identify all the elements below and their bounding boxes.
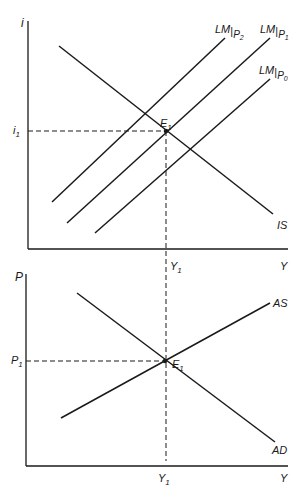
bottom-equilibrium-label: E1 (172, 358, 184, 373)
i1-label: i1 (13, 124, 20, 139)
bottom-x-axis-label: Y (280, 472, 288, 484)
lm-p2-curve (52, 38, 225, 202)
as-label: AS (272, 297, 288, 309)
top-y-axis-label: i (21, 16, 24, 30)
lm-p0-label: LM|P0 (259, 64, 288, 82)
p1-label: P1 (11, 354, 23, 369)
top-panel (28, 21, 288, 461)
bottom-panel (26, 274, 288, 466)
is-label: IS (277, 219, 288, 231)
bottom-y-axis-label: P (15, 270, 23, 284)
top-y1-label: Y1 (170, 260, 182, 275)
islm-asad-diagram: i i1 E1 LM|P2 LM|P1 LM|P0 IS Y1 Y P P1 E… (0, 0, 305, 498)
lm-p1-label: LM|P1 (260, 23, 289, 41)
lm-p2-label: LM|P2 (215, 23, 244, 41)
bottom-equilibrium-point (163, 359, 168, 364)
top-x-axis-label: Y (280, 260, 288, 272)
ad-label: AD (271, 444, 287, 456)
bottom-y1-label: Y1 (158, 472, 170, 487)
lm-p0-curve (95, 79, 270, 233)
